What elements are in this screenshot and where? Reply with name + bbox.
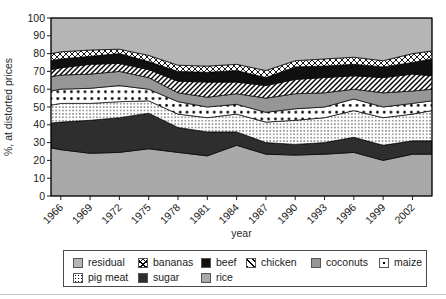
legend: residualbananasbeefchickencoconutsmaizep… <box>63 250 427 287</box>
legend-label: pig meat <box>88 272 128 283</box>
legend-item-residual: residual <box>73 257 138 268</box>
legend-swatch-residual <box>73 258 83 268</box>
x-tick-label: 1975 <box>128 201 153 226</box>
x-tick-label: 1999 <box>363 201 388 226</box>
y-tick-label: 10 <box>33 172 45 184</box>
legend-label: rice <box>216 272 233 283</box>
footer-rule <box>0 294 446 295</box>
x-tick-label: 1981 <box>187 201 212 226</box>
x-tick-label: 1984 <box>216 201 241 226</box>
legend-swatch-sugar <box>138 273 148 283</box>
x-tick-label: 1993 <box>304 201 329 226</box>
legend-label: bananas <box>153 257 193 268</box>
legend-label: maize <box>394 257 422 268</box>
legend-item-sugar: sugar <box>138 272 201 283</box>
y-tick-label: 80 <box>33 47 45 59</box>
legend-swatch-chicken <box>246 258 256 268</box>
x-tick-label: 1966 <box>40 201 65 226</box>
x-tick-label: 1987 <box>245 201 270 226</box>
y-tick-label: 0 <box>39 190 45 202</box>
y-tick-label: 90 <box>33 29 45 41</box>
x-tick-label: 1978 <box>157 201 182 226</box>
y-tick-label: 60 <box>33 83 45 95</box>
legend-label: chicken <box>261 257 297 268</box>
legend-item-rice: rice <box>201 272 246 283</box>
legend-swatch-maize <box>379 258 389 268</box>
legend-label: coconuts <box>326 257 368 268</box>
x-tick-label: 2002 <box>392 201 417 226</box>
stacked-area-chart: 0102030405060708090100196619691972197519… <box>0 0 446 246</box>
y-tick-label: 30 <box>33 136 45 148</box>
legend-label: beef <box>216 257 236 268</box>
legend-label: residual <box>88 257 125 268</box>
legend-swatch-beef <box>201 258 211 268</box>
legend-swatch-bananas <box>138 258 148 268</box>
legend-item-pig_meat: pig meat <box>73 272 138 283</box>
legend-label: sugar <box>153 272 179 283</box>
legend-item-beef: beef <box>201 257 246 268</box>
x-axis-title: year <box>231 227 252 239</box>
y-tick-label: 70 <box>33 65 45 77</box>
y-tick-label: 100 <box>27 12 45 24</box>
x-tick-label: 1972 <box>99 201 124 226</box>
legend-item-chicken: chicken <box>246 257 311 268</box>
legend-swatch-pig_meat <box>73 273 83 283</box>
y-tick-label: 50 <box>33 101 45 113</box>
y-tick-label: 40 <box>33 118 45 130</box>
legend-item-bananas: bananas <box>138 257 201 268</box>
x-tick-label: 1996 <box>333 201 358 226</box>
legend-swatch-rice <box>201 273 211 283</box>
legend-item-maize: maize <box>379 257 426 268</box>
x-tick-label: 1990 <box>275 201 300 226</box>
legend-item-coconuts: coconuts <box>311 257 379 268</box>
x-tick-label: 1969 <box>69 201 94 226</box>
y-axis-title: %, at distorted prices <box>2 58 14 156</box>
legend-swatch-coconuts <box>311 258 321 268</box>
y-tick-label: 20 <box>33 154 45 166</box>
